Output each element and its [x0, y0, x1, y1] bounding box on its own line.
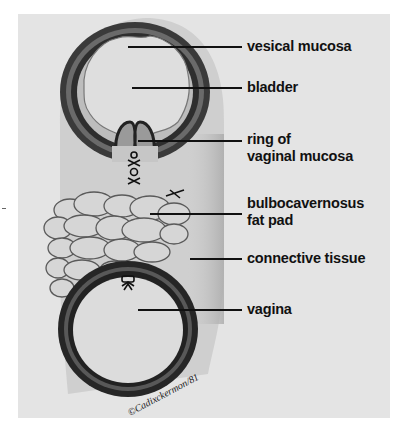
label-bladder: bladder: [247, 79, 298, 96]
label-ring-line1: ring of: [247, 131, 353, 148]
leader-connective-tissue: [190, 258, 242, 260]
label-vagina: vagina: [247, 301, 292, 318]
label-vesical-mucosa: vesical mucosa: [247, 38, 351, 55]
label-fatpad-line2: fat pad: [247, 212, 364, 229]
label-ring-line2: vaginal mucosa: [247, 148, 353, 165]
leader-bladder: [132, 87, 242, 89]
label-fatpad-line1: bulbocavernosus: [247, 195, 364, 212]
leader-bulbocavernosus-fat-pad: [150, 213, 242, 215]
label-bulbocavernosus-fat-pad: bulbocavernosus fat pad: [247, 195, 364, 229]
stray-mark: [2, 208, 6, 209]
leader-vesical-mucosa: [128, 46, 242, 48]
vagina-lumen: [73, 277, 183, 383]
vesical-mucosa: [84, 36, 189, 134]
label-ring-of-vaginal-mucosa: ring of vaginal mucosa: [247, 131, 353, 165]
label-connective-tissue: connective tissue: [247, 250, 365, 267]
leader-ring-of-vaginal-mucosa: [138, 140, 242, 142]
leader-vagina: [138, 309, 242, 311]
